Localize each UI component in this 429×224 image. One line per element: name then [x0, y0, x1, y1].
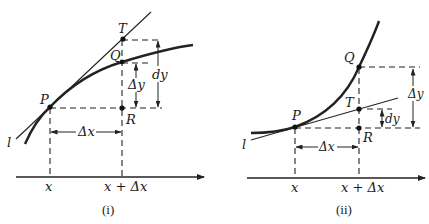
curve-ii [251, 21, 379, 133]
label-T-ii: T [345, 95, 355, 110]
point-P-ii [292, 124, 297, 129]
label-delta-x-ii: Δx [318, 140, 335, 154]
label-Q-i: Q [110, 48, 121, 63]
label-dy-i: dy [152, 67, 168, 82]
tick-label-x-i: x [45, 179, 53, 194]
differential-diagram: T Q P R l Δy dy Δx x x + Δx (i) [0, 0, 429, 224]
tick-label-x-ii: x [291, 180, 299, 195]
label-R-ii: R [362, 130, 373, 145]
label-dy-ii: dy [385, 112, 400, 126]
caption-ii: (ii) [336, 202, 352, 217]
point-T-ii [356, 106, 361, 111]
label-P-ii: P [291, 108, 301, 123]
label-T-i: T [118, 21, 128, 36]
tangent-line-ii [251, 98, 398, 140]
point-R-i [119, 105, 124, 110]
label-delta-y-ii: Δy [407, 87, 424, 101]
label-P-i: P [39, 92, 49, 107]
label-delta-x-i: Δx [77, 124, 95, 139]
label-l-i: l [7, 135, 11, 150]
caption-i: (i) [102, 202, 114, 217]
tick-label-x-plus-dx-i: x + Δx [104, 179, 148, 194]
figure-ii: Q T P R l Δy dy Δx x x + Δx (ii) [242, 21, 425, 217]
label-Q-ii: Q [344, 50, 355, 65]
label-l-ii: l [242, 137, 246, 152]
label-delta-y-i: Δy [127, 77, 145, 92]
figure-i: T Q P R l Δy dy Δx x x + Δx (i) [7, 12, 204, 217]
tick-label-x-plus-dx-ii: x + Δx [341, 180, 385, 195]
point-Q-ii [356, 64, 361, 69]
point-R-ii [356, 125, 361, 130]
label-R-i: R [125, 112, 136, 127]
point-T-i [120, 36, 125, 41]
